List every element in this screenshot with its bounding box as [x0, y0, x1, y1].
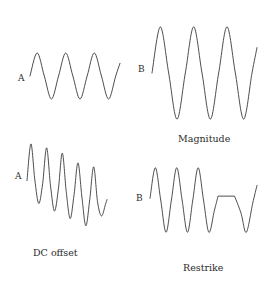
waveform-plot-top-right [152, 13, 257, 133]
waveform-plot-top-left [30, 46, 120, 106]
waveform-trace-bottom-right [150, 168, 257, 233]
waveform-panel-top-left [30, 46, 120, 106]
axis-label-bottom-right: B [136, 194, 143, 203]
waveform-figure: A B Magnitude A DC offset B Restrike [0, 0, 277, 287]
waveform-panel-top-right [152, 13, 257, 133]
axis-label-top-right: B [138, 65, 145, 74]
waveform-trace-bottom-left [27, 144, 107, 226]
waveform-trace-top-left [30, 53, 120, 99]
axis-label-bottom-left: A [15, 172, 22, 181]
axis-label-top-left: A [18, 74, 25, 83]
caption-restrike: Restrike [183, 263, 223, 273]
caption-magnitude: Magnitude [178, 134, 230, 144]
waveform-trace-top-right [152, 27, 257, 119]
waveform-panel-bottom-right [150, 158, 257, 242]
waveform-panel-bottom-left [27, 139, 107, 234]
waveform-plot-bottom-left [27, 139, 107, 234]
caption-dc-offset: DC offset [33, 248, 78, 258]
waveform-plot-bottom-right [150, 158, 257, 242]
